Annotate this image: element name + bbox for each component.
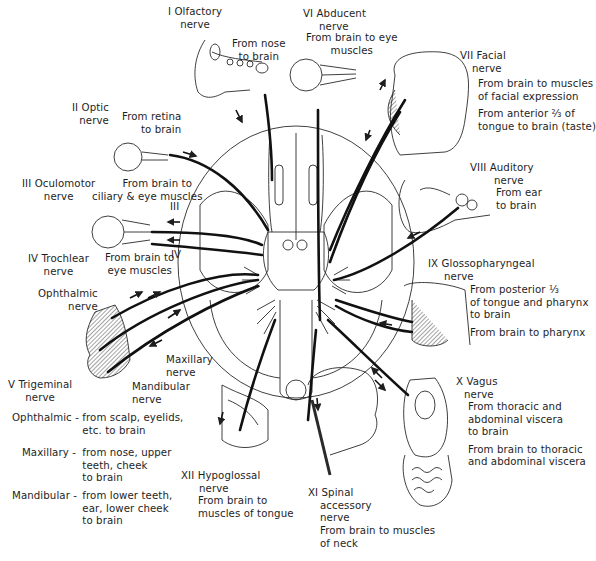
label-maxillary-nerve: Maxillary nerve — [166, 354, 213, 379]
function-line: of tongue and pharynx — [470, 297, 589, 310]
nerve-name: VIII Auditory — [470, 162, 534, 175]
detail-line: from nose, upper — [82, 447, 171, 460]
nerve-suffix: nerve — [460, 63, 506, 76]
function-abducent: From brain to eye muscles — [306, 32, 398, 57]
label-ophthalmic-nerve: Ophthalmic nerve — [38, 288, 98, 313]
viscera-illustration — [403, 378, 452, 506]
function-line: tongue to brain (taste) — [478, 121, 596, 134]
function-line: From retina — [122, 111, 181, 124]
head-facial-illustration — [388, 52, 469, 155]
nerve-suffix: nerve — [428, 271, 535, 284]
label-oculomotor-nerve: III Oculomotor nerve — [22, 178, 95, 203]
function-line: to brain — [232, 51, 286, 64]
detail-branch: Ophthalmic - — [12, 412, 76, 425]
face-trigeminal-illustration — [86, 305, 130, 378]
function-line: From brain to eye — [306, 32, 398, 45]
label-optic-nerve: II Optic nerve — [72, 102, 109, 127]
detail-line: etc. to brain — [82, 425, 183, 438]
function-line: From posterior ⅓ — [470, 284, 589, 297]
detail-branch: Mandibular - — [12, 490, 76, 503]
detail-line: to brain — [82, 515, 172, 528]
label-olfactory-nerve: I Olfactory nerve — [168, 6, 222, 31]
detail-line: ear, lower cheek — [82, 503, 172, 516]
nerve-suffix: nerve — [8, 392, 72, 405]
tongue-illustration — [222, 385, 268, 448]
label-facial-nerve: VII Facial nerve — [460, 50, 506, 75]
nerve-name: X Vagus — [456, 376, 498, 389]
detail-line: teeth, cheek — [82, 460, 171, 473]
function-line: abdominal viscera — [468, 414, 586, 427]
function-line: From nose — [232, 38, 286, 51]
function-line: From anterior ⅔ of — [478, 108, 596, 121]
branch-name: Mandibular — [132, 381, 190, 394]
label-auditory-nerve: VIII Auditory nerve — [470, 162, 534, 187]
trigeminal-detail-maxillary: Maxillary - from nose, upper teeth, chee… — [12, 447, 171, 485]
nerve-suffix: nerve — [456, 389, 498, 402]
eye-optic-illustration — [114, 143, 168, 171]
branch-suffix: nerve — [38, 301, 98, 314]
label-glossopharyngeal-nerve: IX Glossopharyngeal nerve — [428, 258, 535, 283]
function-line: of facial expression — [478, 91, 596, 104]
head-spinal-accessory-illustration — [308, 368, 378, 475]
label-spinal-accessory-nerve: XI Spinal accessory nerve — [308, 487, 372, 525]
function-optic: From retina to brain — [122, 111, 181, 136]
nerve-suffix: accessory — [308, 500, 372, 513]
trigeminal-detail-ophthalmic: Ophthalmic - from scalp, eyelids, etc. t… — [12, 412, 183, 437]
branch-suffix: nerve — [166, 367, 213, 380]
function-line: muscles of tongue — [198, 508, 294, 521]
ear-illustration — [399, 180, 490, 233]
nerve-suffix: nerve — [168, 19, 222, 32]
label-trochlear-nerve: IV Trochlear nerve — [28, 253, 89, 278]
function-hypoglossal: From brain to muscles of tongue — [198, 495, 294, 520]
eye-abducent-illustration — [290, 59, 356, 91]
nerve-name: IV Trochlear — [28, 253, 89, 266]
nerve-name: XI Spinal — [308, 487, 372, 500]
function-line: From thoracic and — [468, 401, 586, 414]
trigeminal-detail-mandibular: Mandibular - from lower teeth, ear, lowe… — [12, 490, 172, 528]
branch-name: Maxillary — [166, 354, 213, 367]
label-mandibular-nerve: Mandibular nerve — [132, 381, 190, 406]
marker-IV: IV — [171, 249, 181, 262]
nerve-suffix: nerve — [470, 175, 534, 188]
function-line: to brain — [122, 124, 181, 137]
function-line: From brain to pharynx — [470, 327, 589, 340]
detail-line: from scalp, eyelids, — [82, 412, 183, 425]
branch-name: Ophthalmic — [38, 288, 98, 301]
function-line: From brain to muscles — [478, 78, 596, 91]
eye-oculomotor-illustration — [92, 216, 152, 248]
function-line: From brain to — [92, 178, 192, 191]
branch-suffix: nerve — [132, 394, 190, 407]
nerve-suffix: nerve — [72, 115, 109, 128]
function-line: and abdominal viscera — [468, 456, 586, 469]
function-line: From brain to — [105, 252, 174, 265]
function-line: From brain to muscles — [320, 525, 435, 538]
throat-illustration — [404, 283, 470, 346]
function-glossopharyngeal: From posterior ⅓ of tongue and pharynx t… — [470, 284, 589, 339]
nerve-name: I Olfactory — [168, 6, 222, 19]
label-hypoglossal-nerve: XII Hypoglossal nerve — [181, 470, 260, 495]
function-spinal-accessory: From brain to muscles of neck — [320, 525, 435, 550]
nerve-name: II Optic — [72, 102, 109, 115]
label-abducent-nerve: VI Abducent nerve — [303, 8, 366, 33]
function-line: From ear — [496, 187, 542, 200]
nerve-suffix: nerve — [181, 483, 260, 496]
function-line: eye muscles — [105, 265, 174, 278]
detail-line: to brain — [82, 472, 171, 485]
marker-III: III — [170, 201, 179, 214]
function-vagus: From thoracic and abdominal viscera to b… — [468, 401, 586, 469]
function-line: to brain — [468, 426, 586, 439]
function-olfactory: From nose to brain — [232, 38, 286, 63]
nerve-suffix: nerve — [22, 191, 95, 204]
function-line: of neck — [320, 538, 435, 551]
nerve-name: IX Glossopharyngeal — [428, 258, 535, 271]
nerve-suffix: nerve — [308, 512, 372, 525]
nerve-name: III Oculomotor — [22, 178, 95, 191]
label-trigeminal-nerve: V Trigeminal nerve — [8, 379, 72, 404]
function-line: to brain — [496, 200, 542, 213]
function-trochlear: From brain to eye muscles — [105, 252, 174, 277]
detail-line: from lower teeth, — [82, 490, 172, 503]
nerve-name: VI Abducent — [303, 8, 366, 21]
label-vagus-nerve: X Vagus nerve — [456, 376, 498, 401]
function-facial: From brain to muscles of facial expressi… — [478, 78, 596, 133]
